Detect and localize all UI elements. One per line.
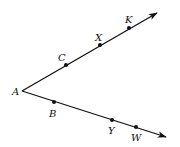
- ray-AW: [22, 91, 166, 137]
- point-y-label: Y: [108, 125, 116, 136]
- rays: [22, 13, 166, 137]
- point-y-dot: [110, 118, 114, 122]
- point-c-dot: [64, 63, 68, 67]
- point-w-label: W: [131, 132, 142, 143]
- vertex-a-label: A: [11, 86, 19, 97]
- ray-AK: [22, 13, 157, 91]
- point-k-label: K: [124, 14, 133, 25]
- point-w-dot: [134, 125, 138, 129]
- point-b-dot: [52, 100, 56, 104]
- point-x-label: X: [94, 32, 103, 43]
- point-c-label: C: [58, 52, 66, 63]
- point-b-label: B: [48, 108, 56, 119]
- point-k-dot: [127, 26, 131, 30]
- point-x-dot: [98, 43, 102, 47]
- diagram-canvas: CXKBYWA: [0, 0, 180, 147]
- angle-diagram: CXKBYWA: [0, 0, 180, 147]
